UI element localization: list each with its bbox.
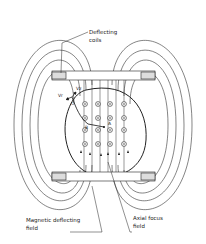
point-b-label: B [85,125,88,131]
deflection-diagram: Deflecting coils Vr Vz C B A Magnetic de… [0,0,206,244]
magnetic-field-label-2: field [26,225,38,231]
axial-focus-field-label-2: field [133,223,145,229]
magnetic-field-label: Magnetic deflecting [26,217,80,223]
deflecting-coils-label-2: coils [89,37,101,43]
diagram-drawing [0,0,206,244]
point-c-label: C [71,101,74,107]
vz-label: Vz [76,86,81,92]
axial-focus-field-label: Axial focus [133,215,163,221]
deflecting-coils-label: Deflecting [89,29,117,35]
vr-label: Vr [58,93,63,99]
point-a-label: A [108,121,111,127]
